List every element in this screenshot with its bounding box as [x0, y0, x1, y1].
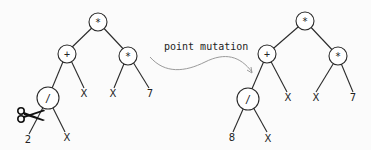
node-label: *	[335, 51, 341, 62]
left-tree-leaf-x: X	[81, 88, 88, 99]
node-label: +	[264, 49, 270, 60]
node-label: /	[45, 93, 51, 104]
node-label: *	[302, 16, 308, 27]
left-tree-leaf-x: X	[64, 132, 71, 143]
right-tree-node-div: /	[237, 88, 259, 110]
scissors-icon	[18, 108, 45, 122]
right-tree-leaf-x: X	[313, 92, 320, 103]
right-tree-leaf-x: X	[285, 92, 292, 103]
node-label: /	[245, 94, 251, 105]
right-tree-leaf-new: 8	[229, 132, 235, 143]
left-tree-leaf-seven: 7	[147, 88, 153, 99]
left-tree-node-plus: +	[58, 45, 76, 63]
right-tree-edges	[233, 21, 353, 132]
point-mutation-diagram: * + * / X X 7 2 X point mutation *	[0, 0, 371, 150]
left-tree-node-div: /	[37, 87, 59, 109]
arrow-head-icon	[247, 67, 252, 73]
right-tree-node-root: *	[296, 12, 314, 30]
mutation-arrow	[150, 57, 252, 72]
node-label: *	[95, 17, 101, 28]
left-tree-leaf-x: X	[110, 88, 117, 99]
left-tree-node-times: *	[119, 47, 137, 65]
left-tree-edges	[29, 22, 149, 134]
right-tree-leaf-x: X	[265, 133, 272, 144]
right-tree-node-plus: +	[258, 45, 276, 63]
node-label: +	[64, 49, 70, 60]
node-label: *	[125, 51, 131, 62]
diagram-canvas: * + * / X X 7 2 X point mutation *	[0, 0, 371, 150]
left-tree-leaf-cut: 2	[25, 134, 31, 145]
mutation-caption: point mutation	[164, 41, 248, 52]
left-tree-node-root: *	[89, 13, 107, 31]
right-tree-leaf-seven: 7	[350, 92, 356, 103]
right-tree-node-times: *	[329, 47, 347, 65]
